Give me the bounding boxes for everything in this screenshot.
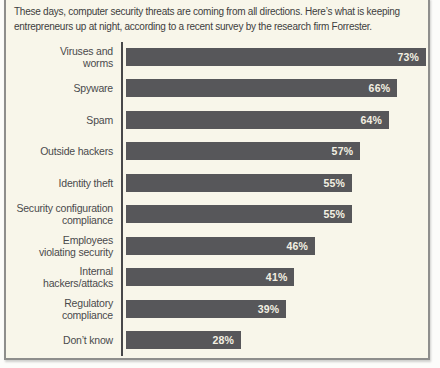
category-label: Spyware [7,82,121,94]
bar: 73% [126,48,426,66]
chart-row: Security configuration compliance 55% [7,199,428,231]
bar: 39% [126,300,286,318]
value-label: 66% [369,82,398,94]
bar-track: 57% [126,142,426,160]
bar: 66% [126,79,397,97]
category-label: Identity theft [7,177,121,189]
chart-row: Viruses and worms 73% [7,41,428,73]
category-label: Viruses and worms [7,45,121,69]
value-label: 41% [266,271,295,283]
value-label: 55% [323,208,352,220]
bar-track: 46% [126,237,426,255]
bar-track: 64% [126,111,426,129]
bar-track: 66% [126,79,426,97]
chart-row: Spyware 66% [7,73,428,105]
value-label: 64% [360,114,389,126]
bar: 28% [126,331,241,349]
bar-track: 41% [126,268,426,286]
bar-track: 55% [126,174,426,192]
value-label: 57% [332,145,361,157]
chart-row: Spam 64% [7,104,428,136]
chart-row: Identity theft 55% [7,167,428,199]
bar-track: 73% [126,48,426,66]
bar-chart-rows: Viruses and worms 73% Spyware 66% Spam 6… [7,41,428,356]
bar: 64% [126,111,389,129]
bar: 46% [126,237,315,255]
category-label: Don’t know [7,334,121,346]
category-label: Employees violating security [7,234,121,258]
bar: 57% [126,142,360,160]
category-label: Spam [7,114,121,126]
chart-row: Don’t know 28% [7,325,428,357]
bar-track: 55% [126,205,426,223]
intro-text: These days, computer security threats ar… [6,0,428,34]
value-label: 55% [323,177,352,189]
bar-chart: Viruses and worms 73% Spyware 66% Spam 6… [7,41,428,356]
bar-track: 39% [126,300,426,318]
category-label: Outside hackers [7,145,121,157]
category-label: Regulatory compliance [7,297,121,321]
chart-row: Employees violating security 46% [7,230,428,262]
chart-row: Regulatory compliance 39% [7,293,428,325]
bar: 41% [126,268,294,286]
bar-track: 28% [126,331,426,349]
category-label: Internal hackers/attacks [7,265,121,289]
bar: 55% [126,174,352,192]
value-label: 39% [258,303,287,315]
chart-row: Internal hackers/attacks 41% [7,262,428,294]
y-axis-line [121,42,123,356]
value-label: 46% [286,240,315,252]
value-label: 73% [397,51,426,63]
value-label: 28% [212,334,241,346]
figure-panel: These days, computer security threats ar… [4,0,430,360]
bar: 55% [126,205,352,223]
category-label: Security configuration compliance [7,202,121,226]
chart-row: Outside hackers 57% [7,136,428,168]
